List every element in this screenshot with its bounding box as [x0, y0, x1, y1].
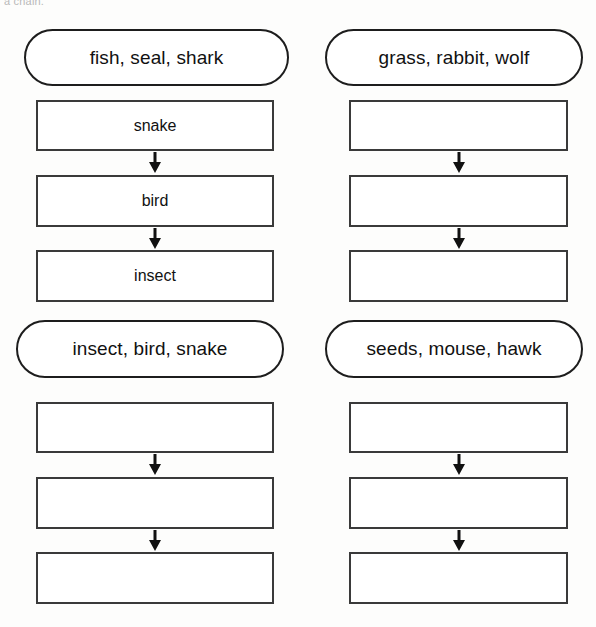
chain-2-step-1[interactable]	[349, 100, 568, 151]
down-arrow-icon	[143, 228, 167, 250]
chain-1-step-1[interactable]: snake	[36, 100, 274, 151]
chain-1-step-3[interactable]: insect	[36, 250, 274, 302]
down-arrow-icon	[447, 152, 471, 174]
worksheet-page: a chain. fish, seal, shark snake bird in…	[0, 0, 596, 627]
chain-3-wordbank: insect, bird, snake	[16, 320, 284, 378]
chain-3-step-3[interactable]	[36, 552, 274, 604]
chain-3-step-2[interactable]	[36, 477, 274, 529]
chain-4-wordbank: seeds, mouse, hawk	[325, 320, 583, 378]
down-arrow-icon	[143, 454, 167, 476]
down-arrow-icon	[447, 454, 471, 476]
down-arrow-icon	[143, 530, 167, 552]
chain-2-step-3[interactable]	[349, 250, 568, 302]
clipped-top-text: a chain.	[4, 0, 124, 7]
chain-4-step-1[interactable]	[349, 402, 568, 453]
chain-4-step-3[interactable]	[349, 552, 568, 604]
chain-4-step-2[interactable]	[349, 477, 568, 529]
chain-2-step-2[interactable]	[349, 175, 568, 227]
down-arrow-icon	[447, 228, 471, 250]
chain-2-wordbank: grass, rabbit, wolf	[325, 29, 583, 86]
chain-1-wordbank: fish, seal, shark	[24, 29, 289, 86]
down-arrow-icon	[143, 152, 167, 174]
chain-3-step-1[interactable]	[36, 402, 274, 453]
down-arrow-icon	[447, 530, 471, 552]
chain-1-step-2[interactable]: bird	[36, 175, 274, 227]
